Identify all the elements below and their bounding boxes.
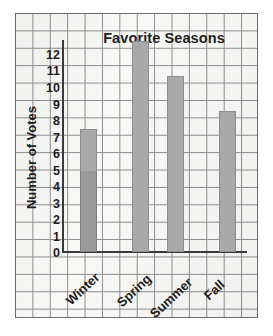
chart-screenshot: Favorite Seasons Number of Votes 12 11 1…	[0, 0, 273, 336]
x-axis-category-labels: Winter Spring Summer Fall	[0, 0, 273, 336]
x-label-fall: Fall	[201, 277, 228, 303]
x-label-winter: Winter	[63, 270, 103, 308]
x-label-spring: Spring	[114, 271, 154, 310]
